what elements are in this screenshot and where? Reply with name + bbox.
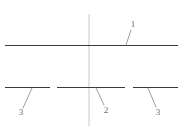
- callout-label-3-left: 3: [19, 107, 24, 117]
- figure-canvas: 1 3 2 3: [0, 0, 187, 130]
- callout-label-1: 1: [131, 19, 136, 29]
- leader-line-3-right: [148, 88, 156, 107]
- leader-line-1: [126, 30, 131, 45]
- callout-label-2-center: 2: [104, 105, 109, 115]
- leader-line-3-left: [23, 88, 32, 108]
- figure-drawing: 1 3 2 3: [0, 0, 187, 130]
- leader-line-2-center: [96, 88, 104, 105]
- callout-label-3-right: 3: [156, 107, 161, 117]
